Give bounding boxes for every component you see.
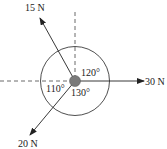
angle-label-130: 130° [71,87,90,98]
body-particle [70,76,81,87]
force-label-30n: 30 N [145,76,165,87]
force-label-20n: 20 N [18,138,38,149]
angle-label-120: 120° [81,67,100,78]
force-diagram: 15 N 30 N 20 N 120° 130° 110° [0,0,167,149]
force-arrow-15n [40,18,75,81]
force-label-15n: 15 N [25,2,45,13]
angle-label-110: 110° [46,83,65,94]
